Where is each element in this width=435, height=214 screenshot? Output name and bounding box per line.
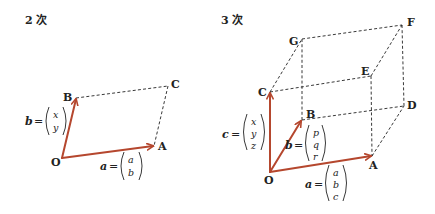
point-o-label: O [51, 156, 61, 169]
equals-sign: = [231, 128, 240, 141]
right-paren-icon [343, 165, 347, 201]
point-g-label: G [289, 35, 298, 48]
edge-e-a [371, 76, 372, 156]
right-paren-icon [261, 114, 265, 150]
edge-g-f [302, 25, 402, 39]
vector-a-equation: a = a b [100, 152, 142, 180]
component-c: c [333, 191, 339, 202]
edge-e-f [371, 25, 402, 76]
point-c-label: C [171, 78, 180, 91]
component-a: a [128, 154, 134, 165]
equals-sign: = [109, 160, 118, 173]
left-paren-icon [46, 107, 49, 135]
point-e-label: E [361, 65, 369, 78]
component-p: p [313, 127, 319, 138]
component-b: b [128, 167, 134, 178]
point-b-label: B [63, 91, 72, 104]
edge-c-a [154, 86, 168, 146]
panel-3d: 3 次 O A B C D E F G c = x y z [221, 13, 417, 202]
panel-3d-title: 3 次 [221, 13, 243, 27]
vector-b-equation: b = p q r [285, 125, 326, 162]
edge-a-d [372, 106, 404, 156]
point-a-label: A [368, 159, 378, 172]
equals-sign: = [314, 178, 323, 191]
left-paren-icon [326, 165, 330, 201]
edge-b-d [302, 106, 404, 120]
vector-a-equation: a = a b c [305, 165, 347, 202]
component-y: y [250, 128, 257, 139]
panel-2d-title: 2 次 [25, 13, 47, 27]
component-x: x [251, 116, 257, 127]
point-a-label: A [157, 140, 167, 153]
component-x: x [53, 109, 59, 120]
left-paren-icon [306, 125, 310, 161]
vector-diagram: 2 次 O A B C b = x y a = a b 3 次 [0, 0, 435, 214]
vector-b-equation: b = x y [25, 107, 66, 135]
vector-b-symbol: b [25, 115, 33, 128]
right-paren-icon [139, 152, 142, 180]
point-c-label: C [258, 86, 267, 99]
right-paren-icon [322, 125, 326, 161]
point-b-label: B [306, 108, 315, 121]
vector-a-arrow [270, 156, 371, 172]
component-a: a [333, 167, 339, 178]
equals-sign: = [294, 139, 303, 152]
point-f-label: F [407, 16, 415, 29]
vector-c-equation: c = x y z [222, 114, 265, 151]
point-d-label: D [407, 99, 417, 112]
vector-b-symbol: b [285, 139, 293, 152]
vector-b-arrow [62, 99, 76, 158]
equals-sign: = [34, 115, 43, 128]
edge-f-d [402, 25, 404, 106]
right-paren-icon [63, 107, 66, 135]
component-z: z [250, 140, 257, 151]
edge-b-c [76, 86, 168, 98]
left-paren-icon [121, 152, 124, 180]
vector-c-symbol: c [222, 128, 229, 141]
component-b: b [333, 179, 339, 190]
vector-a-symbol: a [305, 178, 312, 191]
vector-a-symbol: a [100, 160, 107, 173]
point-o-label: O [264, 174, 274, 187]
panel-2d: 2 次 O A B C b = x y a = a b [25, 13, 180, 180]
component-r: r [313, 151, 319, 162]
left-paren-icon [244, 114, 248, 150]
component-q: q [313, 139, 319, 150]
edge-c-e [270, 76, 371, 92]
component-y: y [52, 122, 59, 133]
